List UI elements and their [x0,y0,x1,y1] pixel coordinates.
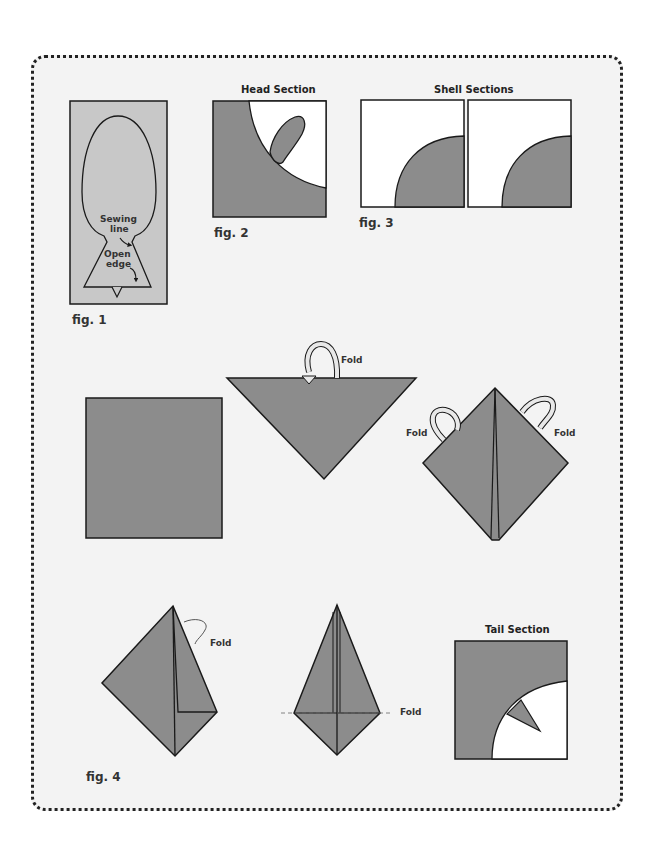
step5-kite [281,605,392,755]
fig4-caption: fig. 4 [86,770,121,784]
step3-diamond [423,388,568,540]
sewing-line-label-1: Sewing [100,214,137,224]
step2-triangle [227,344,416,479]
shell-sections-title: Shell Sections [434,84,514,95]
head-section-title: Head Section [241,84,316,95]
step1-square [86,398,222,538]
open-edge-label-1: Open [104,249,131,259]
step6-tail-section [455,641,567,759]
fig1-caption: fig. 1 [72,313,107,327]
fig2-head-section [213,101,326,217]
tail-section-title: Tail Section [485,624,550,635]
fold-label-step5: Fold [400,707,422,717]
fig3-shell-sections [361,100,571,207]
sewing-line-label-2: line [110,224,129,234]
fig2-caption: fig. 2 [214,226,249,240]
step4-kite-half-folded [102,606,217,756]
open-edge-label-2: edge [106,259,131,269]
fold-label-step3-right: Fold [554,428,576,438]
fold-label-step4: Fold [210,638,232,648]
fig1-pattern [70,101,167,304]
fold-label-step2: Fold [341,355,363,365]
fold-label-step3-left: Fold [406,428,428,438]
fig3-caption: fig. 3 [359,216,394,230]
